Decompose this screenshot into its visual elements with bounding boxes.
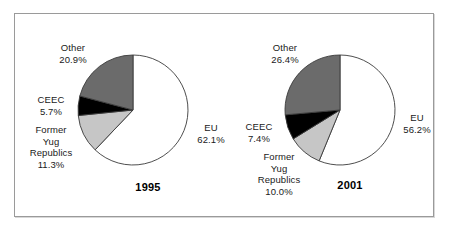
slice-label-former-yug-republics-2001: Former Yug Republics 10.0% bbox=[249, 151, 309, 197]
slice-label-former-yug-republics-1995: Former Yug Republics 11.3% bbox=[22, 124, 80, 170]
slice-label-eu-2001: EU 56.2% bbox=[392, 112, 442, 135]
slice-label-other-1995: Other 20.9% bbox=[38, 42, 108, 65]
pie-chart-figure: Other 20.9% CEEC 5.7% Former Yug Republi… bbox=[0, 0, 452, 236]
chart-title-2001: 2001 bbox=[320, 179, 380, 191]
slice-label-ceec-1995: CEEC 5.7% bbox=[22, 94, 80, 117]
slice-label-other-2001: Other 26.4% bbox=[250, 42, 320, 65]
slice-label-ceec-2001: CEEC 7.4% bbox=[231, 121, 287, 144]
chart-title-1995: 1995 bbox=[118, 181, 178, 193]
slice-label-eu-1995: EU 62.1% bbox=[186, 122, 236, 145]
